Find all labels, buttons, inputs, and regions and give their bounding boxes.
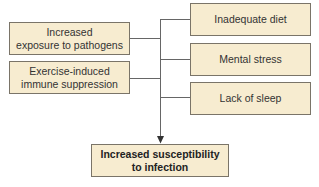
factor-label-line1: Exercise-induced — [21, 65, 118, 78]
outcome-box: Increased susceptibility to infection — [91, 144, 229, 177]
factor-label: Mental stress — [219, 53, 281, 66]
factor-box-increased-exposure: Increased exposure to pathogens — [9, 22, 130, 55]
factor-box-mental-stress: Mental stress — [190, 43, 311, 76]
factor-box-lack-of-sleep: Lack of sleep — [190, 82, 311, 115]
factor-box-inadequate-diet: Inadequate diet — [190, 3, 311, 36]
factor-label-line1: Increased — [16, 26, 123, 39]
factor-label: Lack of sleep — [220, 92, 282, 105]
factor-box-exercise-immune-suppression: Exercise-induced immune suppression — [9, 61, 130, 94]
factor-label-line2: immune suppression — [21, 78, 118, 91]
outcome-label-line1: Increased susceptibility — [100, 148, 219, 161]
arrowhead-icon — [157, 136, 164, 144]
factor-label-line2: exposure to pathogens — [16, 39, 123, 52]
outcome-label-line2: to infection — [100, 161, 219, 174]
factor-label: Inadequate diet — [214, 13, 286, 26]
